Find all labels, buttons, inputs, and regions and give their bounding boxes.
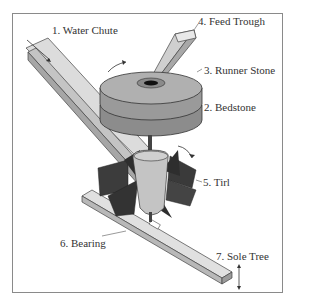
label-tirl: 5. Tirl <box>203 176 230 188</box>
label-water-chute: 1. Water Chute <box>52 24 118 36</box>
label-sole-tree: 7. Sole Tree <box>216 250 269 262</box>
label-bearing: 6. Bearing <box>60 237 106 249</box>
label-feed-trough: 4. Feed Trough <box>198 15 265 27</box>
label-runner-stone: 3. Runner Stone <box>204 64 275 76</box>
millstones <box>100 60 202 136</box>
height-adjust-arrow <box>237 264 241 290</box>
label-bedstone: 2. Bedstone <box>204 101 256 113</box>
